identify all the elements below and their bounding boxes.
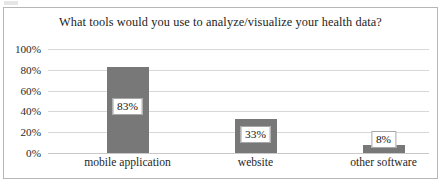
- x-axis-tick-website: website: [238, 156, 273, 169]
- x-axis-tick-mobile-application: mobile application: [84, 156, 171, 169]
- y-axis-tick-60: 60%: [20, 85, 41, 97]
- bar-group-other-software: 8%: [352, 49, 415, 153]
- x-axis-tick-other-software: other software: [350, 156, 417, 169]
- bar-value-label-other-software: 8%: [371, 131, 396, 148]
- bar-value-label-website: 33%: [240, 126, 271, 143]
- y-axis-tick-labels: 100% 80% 60% 40% 20% 0%: [4, 49, 45, 153]
- bar-group-website: 33%: [224, 49, 287, 153]
- gridline-0-baseline: [48, 153, 429, 154]
- x-axis-tick-labels: mobile application website other softwar…: [48, 156, 429, 176]
- scan-artifact: [4, 1, 18, 5]
- bar-group-mobile-application: 83%: [96, 49, 159, 153]
- y-axis-tick-80: 80%: [20, 64, 41, 76]
- bar-chart: What tools would you use to analyze/visu…: [3, 7, 438, 179]
- y-axis-tick-20: 20%: [20, 126, 41, 138]
- bar-series: 83% 33% 8%: [48, 49, 429, 153]
- y-axis-tick-100: 100%: [15, 43, 41, 55]
- chart-title: What tools would you use to analyze/visu…: [4, 15, 437, 30]
- y-axis-tick-40: 40%: [20, 105, 41, 117]
- y-axis-tick-0: 0%: [26, 147, 41, 159]
- bar-value-label-mobile-application: 83%: [112, 98, 143, 115]
